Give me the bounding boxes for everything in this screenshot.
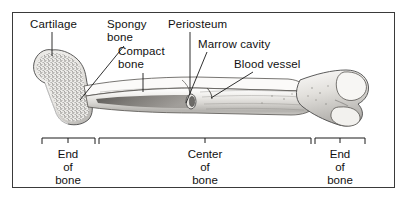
callout-blood-vessel: Blood vessel: [234, 58, 300, 71]
callout-marrow-cavity: Marrow cavity: [198, 38, 270, 51]
bone-anatomy-figure: Cartilage Spongy bone Compact bone Perio…: [0, 0, 412, 199]
callout-cartilage: Cartilage: [30, 18, 77, 31]
callout-compact-bone: Compact bone: [118, 45, 165, 70]
callout-spongy-bone: Spongy bone: [107, 18, 147, 43]
region-label-center-of-bone: Center of bone: [145, 148, 265, 187]
region-label-end-of-bone-right: End of bone: [280, 148, 400, 187]
region-label-end-of-bone-left: End of bone: [8, 148, 128, 187]
callout-periosteum: Periosteum: [168, 18, 227, 31]
